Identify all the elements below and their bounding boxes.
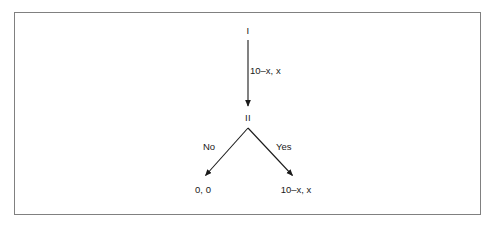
- node-root-label: I: [247, 26, 250, 36]
- node-second-label: II: [245, 113, 251, 123]
- payoff-left-label: 0, 0: [195, 185, 211, 195]
- payoff-right-label: 10–x, x: [281, 185, 312, 195]
- game-tree-figure: I II 10–x, x No Yes 0, 0 10–x, x: [0, 0, 496, 229]
- edge-accept-label: Yes: [276, 142, 292, 152]
- edge-reject-label: No: [203, 142, 215, 152]
- edge-offer-label: 10–x, x: [250, 66, 281, 76]
